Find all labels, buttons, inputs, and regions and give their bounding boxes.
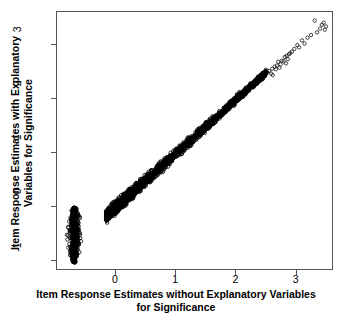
data-points-layer: [57, 12, 332, 269]
y-axis-title: Item Response Estimates with Explanatory…: [9, 13, 35, 273]
data-point: [303, 42, 306, 45]
data-point: [324, 25, 327, 28]
data-point: [279, 63, 282, 66]
y-tick-mark: [51, 260, 56, 261]
data-point: [309, 33, 312, 36]
y-tick-mark: [51, 152, 56, 153]
data-point: [286, 57, 289, 60]
y-tick-mark: [51, 44, 56, 45]
scatter-plot-figure: 0123 -10123 Item Response Estimates with…: [0, 0, 344, 323]
data-point: [315, 31, 318, 34]
x-tick-label: 1: [163, 274, 187, 285]
x-tick-label: 0: [103, 274, 127, 285]
x-axis-title-line-2: for Significance: [18, 301, 334, 314]
x-axis-title: Item Response Estimates without Explanat…: [18, 288, 334, 314]
y-axis-title-line-1: Item Response Estimates with Explanatory: [9, 13, 22, 273]
x-axis-title-line-1: Item Response Estimates without Explanat…: [18, 288, 334, 301]
y-tick-mark: [51, 206, 56, 207]
y-tick-mark: [51, 98, 56, 99]
data-point: [306, 36, 309, 39]
data-point: [300, 39, 303, 42]
y-axis-title-line-2: Variables for Significance: [22, 13, 35, 273]
data-point: [318, 27, 321, 30]
data-point: [313, 19, 316, 22]
x-tick-label: 2: [223, 274, 247, 285]
plot-area: [56, 11, 333, 270]
x-tick-label: 3: [284, 274, 308, 285]
data-point: [293, 47, 296, 50]
